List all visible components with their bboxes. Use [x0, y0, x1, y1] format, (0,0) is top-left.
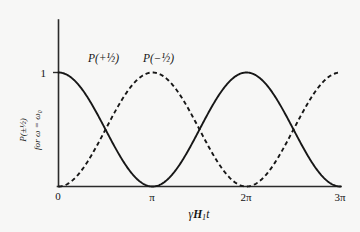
annotation-p-plus-half: P(+½) [87, 52, 119, 65]
y-tick-label-1: 1 [41, 67, 47, 79]
figure-background [0, 0, 360, 232]
x-tick-label-0: 0 [55, 190, 61, 202]
rabi-oscillation-figure: 1 0 π 2π 3π γH1t P(±½) for ω = ω₀ P(+½) … [0, 0, 360, 232]
y-axis-title-line2: for ω = ω₀ [32, 110, 42, 150]
x-tick-label-3pi: 3π [334, 191, 346, 203]
annotation-p-minus-half: P(−½) [142, 52, 174, 65]
x-tick-label-pi: π [149, 191, 155, 203]
y-axis-title-line1: P(±½) [18, 118, 28, 143]
x-tick-label-2pi: 2π [240, 191, 252, 203]
